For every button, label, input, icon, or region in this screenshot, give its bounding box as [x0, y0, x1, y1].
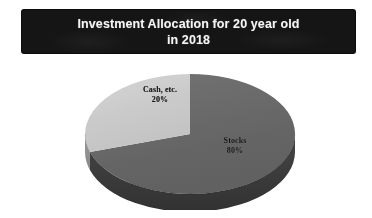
pie-label-stocks-name: Stocks	[205, 136, 265, 146]
pie-label-stocks: Stocks 80%	[205, 136, 265, 155]
slide-canvas: Investment Allocation for 20 year old in…	[0, 0, 372, 218]
slide-title-line-1: Investment Allocation for 20 year old	[77, 16, 299, 32]
pie-label-cash: Cash, etc. 20%	[130, 85, 190, 104]
pie-label-cash-value: 20%	[130, 95, 190, 105]
slide-title-line-2: in 2018	[167, 32, 210, 48]
pie-chart-graphic	[60, 58, 335, 210]
pie-label-stocks-value: 80%	[205, 146, 265, 156]
slide-title-banner: Investment Allocation for 20 year old in…	[22, 10, 355, 53]
pie-chart: Cash, etc. 20% Stocks 80%	[60, 58, 335, 210]
pie-label-cash-name: Cash, etc.	[130, 85, 190, 95]
